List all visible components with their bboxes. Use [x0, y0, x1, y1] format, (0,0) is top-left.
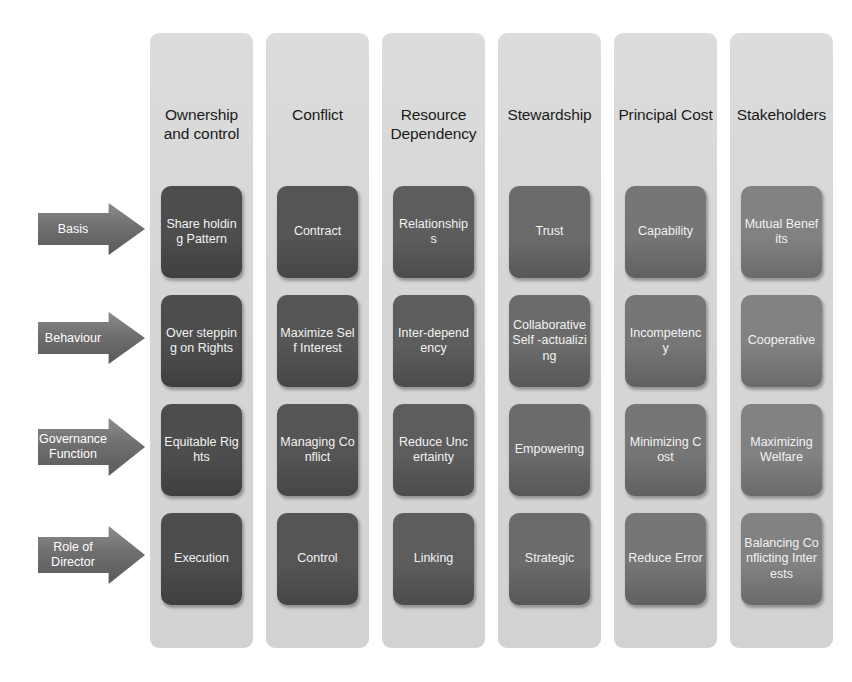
column-band-principal-cost: Principal CostCapabilityIncompetencyMini…: [614, 33, 717, 648]
row-label-arrow-behaviour: Behaviour: [38, 312, 145, 364]
cell-text: Reduce Uncertainty: [396, 435, 471, 466]
cell-box-resource-dependency-role-of-director: Linking: [393, 513, 474, 605]
cell-box-principal-cost-basis: Capability: [625, 186, 706, 278]
row-label-arrow-basis: Basis: [38, 203, 145, 255]
cell-text: Minimizing Cost: [628, 435, 703, 466]
cell-text: Control: [280, 551, 355, 567]
cell-text: Maximize Self Interest: [280, 326, 355, 357]
cell-box-resource-dependency-behaviour: Inter-dependency: [393, 295, 474, 387]
cell-text: Equitable Rights: [164, 435, 239, 466]
cell-box-resource-dependency-governance-function: Reduce Uncertainty: [393, 404, 474, 496]
column-band-stewardship: StewardshipTrustCollaborative Self -actu…: [498, 33, 601, 648]
column-header-stewardship: Stewardship: [498, 105, 601, 124]
cell-box-stewardship-behaviour: Collaborative Self -actualizing: [509, 295, 590, 387]
cell-text: Balancing Conflicting Interests: [744, 536, 819, 583]
cell-text: Managing Conflict: [280, 435, 355, 466]
row-label-text: Basis: [38, 203, 108, 255]
column-band-resource-dependency: Resource DependencyRelationshipsInter-de…: [382, 33, 485, 648]
cell-text: Share holding Pattern: [164, 217, 239, 248]
cell-text: Relationships: [396, 217, 471, 248]
cell-box-principal-cost-role-of-director: Reduce Error: [625, 513, 706, 605]
cell-text: Empowering: [512, 442, 587, 458]
cell-box-principal-cost-governance-function: Minimizing Cost: [625, 404, 706, 496]
diagram-canvas: Basis Behaviour Governance Function Role…: [0, 0, 852, 682]
row-label-arrow-governance-function: Governance Function: [38, 418, 145, 476]
cell-text: Inter-dependency: [396, 326, 471, 357]
cell-box-conflict-role-of-director: Control: [277, 513, 358, 605]
column-header-stakeholders: Stakeholders: [730, 105, 833, 124]
column-header-ownership-and-control: Ownership and control: [150, 105, 253, 143]
cell-box-ownership-and-control-behaviour: Over stepping on Rights: [161, 295, 242, 387]
column-header-conflict: Conflict: [266, 105, 369, 124]
row-label-text: Governance Function: [38, 418, 108, 476]
row-label-text: Role of Director: [38, 526, 108, 584]
cell-box-ownership-and-control-basis: Share holding Pattern: [161, 186, 242, 278]
column-band-stakeholders: StakeholdersMutual BenefitsCooperativeMa…: [730, 33, 833, 648]
cell-text: Mutual Benefits: [744, 217, 819, 248]
cell-text: Trust: [512, 224, 587, 240]
cell-box-stakeholders-role-of-director: Balancing Conflicting Interests: [741, 513, 822, 605]
row-label-arrow-role-of-director: Role of Director: [38, 526, 145, 584]
cell-box-stewardship-basis: Trust: [509, 186, 590, 278]
cell-text: Over stepping on Rights: [164, 326, 239, 357]
cell-box-ownership-and-control-governance-function: Equitable Rights: [161, 404, 242, 496]
cell-box-stewardship-role-of-director: Strategic: [509, 513, 590, 605]
cell-box-resource-dependency-basis: Relationships: [393, 186, 474, 278]
cell-box-stakeholders-behaviour: Cooperative: [741, 295, 822, 387]
cell-text: Contract: [280, 224, 355, 240]
column-header-principal-cost: Principal Cost: [614, 105, 717, 124]
row-label-text: Behaviour: [38, 312, 108, 364]
cell-box-principal-cost-behaviour: Incompetency: [625, 295, 706, 387]
column-band-conflict: ConflictContractMaximize Self InterestMa…: [266, 33, 369, 648]
cell-text: Collaborative Self -actualizing: [512, 318, 587, 365]
cell-text: Maximizing Welfare: [744, 435, 819, 466]
cell-box-conflict-basis: Contract: [277, 186, 358, 278]
column-band-ownership-and-control: Ownership and controlShare holding Patte…: [150, 33, 253, 648]
cell-text: Linking: [396, 551, 471, 567]
cell-text: Strategic: [512, 551, 587, 567]
cell-box-stakeholders-governance-function: Maximizing Welfare: [741, 404, 822, 496]
cell-text: Cooperative: [744, 333, 819, 349]
column-header-resource-dependency: Resource Dependency: [382, 105, 485, 143]
cell-text: Incompetency: [628, 326, 703, 357]
cell-box-ownership-and-control-role-of-director: Execution: [161, 513, 242, 605]
cell-box-stewardship-governance-function: Empowering: [509, 404, 590, 496]
cell-box-conflict-behaviour: Maximize Self Interest: [277, 295, 358, 387]
cell-box-conflict-governance-function: Managing Conflict: [277, 404, 358, 496]
cell-text: Reduce Error: [628, 551, 703, 567]
cell-box-stakeholders-basis: Mutual Benefits: [741, 186, 822, 278]
cell-text: Capability: [628, 224, 703, 240]
cell-text: Execution: [164, 551, 239, 567]
